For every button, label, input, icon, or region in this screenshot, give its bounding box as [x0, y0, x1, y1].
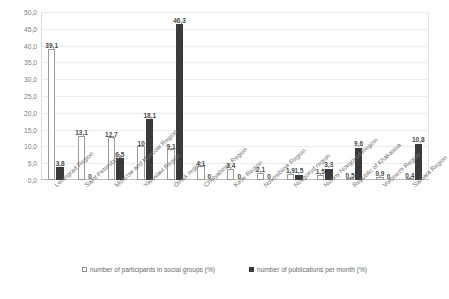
bar-value-label: 18,1 [143, 112, 156, 119]
y-axis-tick-labels: 0,05,010,015,020,025,030,035,040,045,050… [0, 12, 37, 180]
bar: 2,1 [257, 173, 265, 180]
x-axis-category-labels: Leningrad RegionSaint PetersburgMoscow a… [41, 183, 429, 255]
bar: 1,5 [317, 175, 325, 180]
bar-value-label: 10 [138, 140, 145, 147]
bar-group: 4,10 [190, 12, 220, 180]
y-tick-label: 20,0 [0, 109, 37, 116]
bar: 39,1 [48, 49, 56, 180]
y-tick-label: 50,0 [0, 9, 37, 16]
bar-chart: 0,05,010,015,020,025,030,035,040,045,050… [0, 0, 449, 299]
y-tick-label: 0,0 [0, 177, 37, 184]
y-tick-label: 15,0 [0, 126, 37, 133]
legend-label: number of participants in social groups … [90, 266, 215, 273]
legend-item[interactable]: number of publications per month (%) [249, 266, 367, 273]
y-tick-label: 40,0 [0, 42, 37, 49]
bar-value-label: 12,7 [105, 131, 118, 138]
bar: 0,9 [376, 177, 384, 180]
y-tick-label: 45,0 [0, 25, 37, 32]
bar-group: 2,10 [250, 12, 280, 180]
bar: 0,4 [406, 178, 414, 180]
legend-swatch-participants-icon [82, 267, 87, 272]
legend-label: number of publications per month (%) [257, 266, 367, 273]
bar-value-label: 46,3 [173, 17, 186, 24]
bar-value-label: 0,9 [375, 170, 384, 177]
bar-value-label: 13,1 [75, 129, 88, 136]
chart-legend: number of participants in social groups … [0, 266, 449, 273]
bar-value-label: 3,3 [324, 161, 333, 168]
bar-value-label: 10,8 [412, 136, 425, 143]
y-tick-label: 10,0 [0, 143, 37, 150]
y-tick-label: 35,0 [0, 59, 37, 66]
legend-item[interactable]: number of participants in social groups … [82, 266, 215, 273]
bar-value-label: 39,1 [45, 42, 58, 49]
bar-value-label: 3,8 [56, 160, 65, 167]
y-tick-label: 5,0 [0, 160, 37, 167]
bar-value-label: 9,1 [167, 143, 176, 150]
bar: 3,4 [227, 169, 235, 180]
y-tick-label: 25,0 [0, 93, 37, 100]
y-tick-label: 30,0 [0, 76, 37, 83]
bar: 1,9 [287, 174, 295, 180]
legend-swatch-publications-icon [249, 267, 254, 272]
bar-value-label: 0,5 [346, 172, 355, 179]
bar-value-label: 0,4 [405, 172, 414, 179]
bar-group: 39,13,8 [41, 12, 71, 180]
